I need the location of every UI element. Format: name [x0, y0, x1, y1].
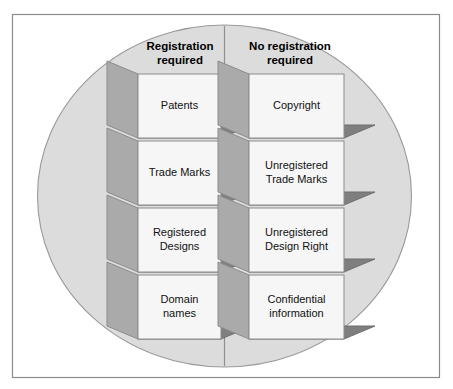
box-confidential-information-label-line1: Confidential [267, 293, 325, 305]
box-unregistered-design-right-left-face [218, 195, 249, 272]
box-domain-names-left-face [107, 262, 138, 339]
ip-rights-diagram: Registration required No registration re… [0, 0, 453, 389]
box-domain-names-label-line2: names [163, 307, 197, 319]
box-registered-designs-label-line1: Registered [153, 226, 206, 238]
diagram-root: Registration required No registration re… [0, 0, 453, 389]
box-copyright-label-line1: Copyright [273, 99, 320, 111]
right-column-header-line2: required [267, 54, 313, 66]
left-column-header-line1: Registration [146, 40, 213, 52]
box-registered-designs-label-line2: Designs [160, 240, 200, 252]
box-confidential-information-left-face [218, 262, 249, 339]
box-unregistered-design-right-label-line1: Unregistered [265, 226, 328, 238]
box-unregistered-design-right-label-line2: Design Right [265, 240, 328, 252]
box-domain-names-label-line1: Domain [161, 293, 199, 305]
box-trade-marks-label-line1: Trade Marks [149, 166, 211, 178]
box-copyright-left-face [218, 61, 249, 138]
box-confidential-information-label-line2: information [269, 307, 323, 319]
left-column-header-line2: required [157, 54, 203, 66]
box-trade-marks-left-face [107, 128, 138, 205]
box-unregistered-trade-marks-label-line1: Unregistered [265, 159, 328, 171]
box-unregistered-trade-marks-left-face [218, 128, 249, 205]
box-unregistered-trade-marks-label-line2: Trade Marks [266, 173, 328, 185]
right-column-header-line1: No registration [249, 40, 331, 52]
box-registered-designs-left-face [107, 195, 138, 272]
box-patents-label-line1: Patents [161, 99, 199, 111]
